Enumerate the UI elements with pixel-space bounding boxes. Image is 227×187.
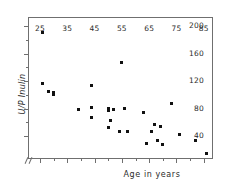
y-tick-label: 120 — [189, 77, 204, 85]
data-point — [150, 130, 153, 133]
data-point — [90, 84, 93, 87]
data-point — [142, 111, 145, 114]
y-tick-minor — [26, 40, 29, 41]
data-point — [47, 90, 50, 93]
data-point — [156, 139, 159, 142]
x-tick-label: 55 — [117, 25, 127, 33]
x-tick-label: 65 — [144, 25, 154, 33]
x-tick-major — [67, 158, 68, 163]
x-axis-title: Age in years — [123, 170, 180, 179]
data-point — [52, 91, 55, 94]
y-tick-label: 80 — [194, 105, 204, 113]
y-tick-label: 160 — [189, 50, 204, 58]
data-point — [107, 109, 110, 112]
y-tick-major — [24, 54, 29, 55]
x-tick-major — [122, 158, 123, 163]
x-tick-label: 45 — [90, 25, 100, 33]
data-point — [118, 130, 121, 133]
y-tick-minor — [26, 95, 29, 96]
x-tick-minor — [54, 158, 55, 161]
data-point — [153, 123, 156, 126]
x-tick-major — [40, 158, 41, 163]
x-tick-minor — [163, 158, 164, 161]
y-tick-minor — [26, 122, 29, 123]
x-tick-label: 75 — [172, 25, 182, 33]
y-tick-major — [24, 109, 29, 110]
data-point — [41, 82, 44, 85]
x-tick-major — [176, 158, 177, 163]
data-point — [145, 142, 148, 145]
x-tick-major — [95, 158, 96, 163]
data-point — [77, 108, 80, 111]
x-tick-minor — [81, 158, 82, 161]
data-point — [123, 107, 126, 110]
data-point — [159, 125, 162, 128]
y-tick-minor — [26, 67, 29, 68]
data-point — [205, 152, 208, 155]
data-point — [41, 31, 44, 34]
data-point — [112, 108, 115, 111]
data-point — [126, 130, 129, 133]
x-tick-minor — [136, 158, 137, 161]
data-point — [120, 61, 123, 64]
data-point — [90, 116, 93, 119]
x-tick-label: 85 — [199, 25, 209, 33]
data-point — [90, 106, 93, 109]
x-tick-major — [149, 158, 150, 163]
data-point — [109, 119, 112, 122]
axis-break-icon — [25, 157, 35, 164]
x-tick-minor — [108, 158, 109, 161]
x-tick-label: 35 — [62, 25, 72, 33]
x-tick-major — [204, 158, 205, 163]
scatter-plot-figure: U/P Inulin Age in years 4080120160200 25… — [0, 0, 227, 187]
plot-area: 4080120160200 25354555657585 — [28, 17, 213, 159]
data-point — [107, 126, 110, 129]
data-point — [170, 102, 173, 105]
data-point — [178, 133, 181, 136]
y-tick-major — [24, 26, 29, 27]
data-point — [194, 139, 197, 142]
x-tick-minor — [190, 158, 191, 161]
y-tick-major — [24, 81, 29, 82]
data-point — [161, 143, 164, 146]
y-tick-major — [24, 136, 29, 137]
